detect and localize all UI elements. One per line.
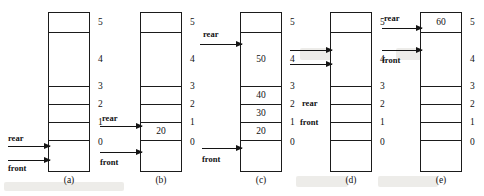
pointer-label-b-front: front: [100, 158, 118, 167]
index-label-b-5: 5: [190, 18, 204, 28]
cell-b-5: [141, 13, 181, 33]
index-label-d-2: 2: [380, 100, 394, 110]
panel-caption-b: (b): [140, 176, 182, 186]
cell-c-0: [241, 141, 281, 171]
cell-e-3: [421, 87, 461, 105]
cell-value: 50: [256, 55, 266, 65]
panel-caption-a: (a): [48, 176, 90, 186]
cell-d-1: [331, 123, 371, 141]
pointer-label-c-rear: rear: [203, 30, 218, 39]
cell-a-0: [49, 141, 89, 171]
pointer-label-d-rear: rear: [302, 99, 317, 108]
index-label-b-2: 2: [190, 100, 204, 110]
index-label-e-4: 4: [470, 55, 484, 65]
index-label-a-2: 2: [98, 100, 112, 110]
pointer-label-d-front: front: [300, 118, 318, 127]
queue-array-figure: 5 4 3 2 1 0 rear front (a) 20 5 4 3 2: [0, 0, 484, 196]
array-column-d: [330, 12, 372, 172]
arrow-head: [416, 47, 423, 53]
cell-e-4: [421, 33, 461, 87]
index-label-a-3: 3: [98, 82, 112, 92]
cell-e-5: 60: [421, 13, 461, 33]
index-label-a-0: 0: [98, 138, 112, 148]
cell-e-2: [421, 105, 461, 123]
index-label-b-1: 1: [190, 118, 204, 128]
index-label-b-4: 4: [190, 55, 204, 65]
arrow-head: [44, 157, 51, 163]
cell-b-4: [141, 33, 181, 87]
index-label-e-1: 1: [470, 118, 484, 128]
cell-e-0: [421, 141, 461, 171]
cell-b-1: 20: [141, 123, 181, 141]
index-label-a-5: 5: [98, 18, 112, 28]
cell-value: 30: [256, 109, 266, 119]
index-label-c-5: 5: [290, 18, 304, 28]
arrow-head: [326, 61, 333, 67]
index-label-b-0: 0: [190, 138, 204, 148]
cell-b-3: [141, 87, 181, 105]
cell-a-3: [49, 87, 89, 105]
cell-d-3: [331, 87, 371, 105]
pointer-label-e-front: front: [382, 56, 400, 65]
array-column-a: [48, 12, 90, 172]
arrow-head: [44, 143, 51, 149]
panel-caption-d: (d): [330, 176, 372, 186]
index-label-d-0: 0: [380, 138, 394, 148]
arrow-head: [236, 145, 243, 151]
array-column-b: 20: [140, 12, 182, 172]
cell-c-1: 20: [241, 123, 281, 141]
index-label-e-3: 3: [470, 82, 484, 92]
pointer-label-a-front: front: [8, 164, 26, 173]
index-label-e-2: 2: [470, 100, 484, 110]
index-label-d-3: 3: [380, 82, 394, 92]
pointer-label-a-rear: rear: [8, 134, 23, 143]
cell-c-3: 40: [241, 87, 281, 105]
arrow-head: [136, 149, 143, 155]
index-label-b-3: 3: [190, 82, 204, 92]
index-label-a-4: 4: [98, 55, 112, 65]
cell-d-4: [331, 33, 371, 87]
index-label-d-1: 1: [380, 118, 394, 128]
cell-d-5: [331, 13, 371, 33]
arrow-head: [136, 123, 143, 129]
index-label-c-0: 0: [290, 138, 304, 148]
pointer-label-e-rear: rear: [384, 14, 399, 23]
cell-value: 60: [436, 18, 446, 28]
cell-d-2: [331, 105, 371, 123]
cell-a-5: [49, 13, 89, 33]
cell-c-4: 50: [241, 33, 281, 87]
pointer-label-b-rear: rear: [102, 114, 117, 123]
arrow-head: [416, 25, 423, 31]
pointer-label-c-front: front: [202, 155, 220, 164]
cell-e-1: [421, 123, 461, 141]
cell-value: 20: [256, 127, 266, 137]
cell-a-2: [49, 105, 89, 123]
array-column-c: 50 40 30 20: [240, 12, 282, 172]
cell-c-5: [241, 13, 281, 33]
index-label-c-3: 3: [290, 82, 304, 92]
cell-d-0: [331, 141, 371, 171]
index-label-e-0: 0: [470, 138, 484, 148]
cell-a-4: [49, 33, 89, 87]
arrow-head: [326, 47, 333, 53]
cell-b-2: [141, 105, 181, 123]
cell-c-2: 30: [241, 105, 281, 123]
cell-a-1: [49, 123, 89, 141]
cell-value: 20: [156, 127, 166, 137]
cell-b-0: [141, 141, 181, 171]
panel-caption-e: (e): [420, 176, 462, 186]
arrow-head: [236, 41, 243, 47]
index-label-e-5: 5: [470, 18, 484, 28]
array-column-e: 60: [420, 12, 462, 172]
cell-value: 40: [256, 91, 266, 101]
panel-caption-c: (c): [240, 176, 282, 186]
